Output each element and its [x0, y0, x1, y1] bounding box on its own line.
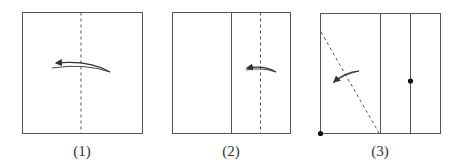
origami-fold-diagram: (1) (2) (3): [0, 0, 465, 166]
panel-1: (1): [23, 13, 143, 161]
panel-3: (3): [318, 14, 441, 161]
reference-dot: [408, 78, 413, 83]
fold-arrow-icon: [246, 67, 276, 72]
paper-square: [23, 13, 143, 134]
valley-fold-line: [321, 32, 379, 133]
panel-label-1: (1): [73, 143, 91, 160]
panel-label-3: (3): [371, 143, 389, 160]
panel-2: (2): [173, 13, 291, 161]
fold-arrow-icon: [333, 71, 359, 83]
reference-dot: [318, 131, 323, 136]
panel-label-2: (2): [222, 143, 240, 160]
